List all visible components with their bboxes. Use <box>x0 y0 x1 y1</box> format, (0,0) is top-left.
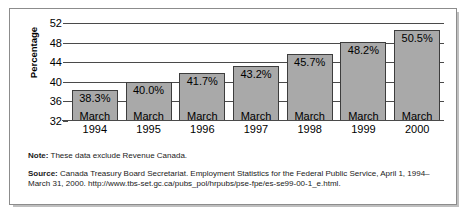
gridline <box>68 62 444 63</box>
x-tick-label: March1996 <box>175 110 229 135</box>
figure-panel: Percentage 323640444852 38.3%40.0%41.7%4… <box>9 8 457 205</box>
x-tick-label-line: 2000 <box>390 123 444 136</box>
bar-value-label: 45.7% <box>288 56 332 68</box>
y-tick-label: 40 <box>50 76 62 88</box>
bar-value-label: 48.2% <box>341 44 385 56</box>
y-tick-mark <box>63 82 68 83</box>
source-line: Source: Canada Treasury Board Secretaria… <box>28 169 440 190</box>
y-tick-mark <box>63 62 68 63</box>
source-text: Canada Treasury Board Secretariat. Emplo… <box>28 169 430 189</box>
x-tick-label: March1997 <box>229 110 283 135</box>
gridline <box>68 43 444 44</box>
x-tick-label-line: March <box>122 110 176 123</box>
bar-value-label: 41.7% <box>180 75 224 87</box>
x-tick-label: March2000 <box>390 110 444 135</box>
y-tick-mark <box>63 43 68 44</box>
y-tick-label: 48 <box>50 37 62 49</box>
gridline <box>68 23 444 24</box>
plot-area: 323640444852 38.3%40.0%41.7%43.2%45.7%48… <box>68 23 444 121</box>
x-tick-label-line: 1998 <box>283 123 337 136</box>
note-line: Note: These data exclude Revenue Canada. <box>28 151 440 162</box>
note-label: Note: <box>28 151 48 160</box>
bar-value-label: 38.3% <box>73 92 117 104</box>
x-tick-label-line: 1994 <box>68 123 122 136</box>
x-tick-label-line: 1996 <box>175 123 229 136</box>
y-tick-mark <box>63 101 68 102</box>
notes-block: Note: These data exclude Revenue Canada.… <box>28 151 440 190</box>
bar-value-label: 43.2% <box>234 68 278 80</box>
x-tick-label-line: March <box>337 110 391 123</box>
x-tick-label: March1998 <box>283 110 337 135</box>
x-tick-label-line: March <box>68 110 122 123</box>
bar-value-label: 40.0% <box>127 84 171 96</box>
x-tick-label-line: March <box>229 110 283 123</box>
note-text: These data exclude Revenue Canada. <box>51 151 188 160</box>
bar-value-label: 50.5% <box>395 32 439 44</box>
x-tick-label-line: March <box>175 110 229 123</box>
x-tick-label-line: 1995 <box>122 123 176 136</box>
x-tick-label: March1999 <box>337 110 391 135</box>
x-tick-label-line: 1997 <box>229 123 283 136</box>
y-tick-label: 32 <box>50 115 62 127</box>
x-tick-label: March1995 <box>122 110 176 135</box>
x-tick-label-line: March <box>283 110 337 123</box>
y-axis-title: Percentage <box>28 8 39 98</box>
x-tick-label: March1994 <box>68 110 122 135</box>
bar: 50.5% <box>394 30 440 121</box>
bar-chart: Percentage 323640444852 38.3%40.0%41.7%4… <box>10 9 456 141</box>
x-tick-label-line: March <box>390 110 444 123</box>
y-tick-label: 36 <box>50 95 62 107</box>
y-tick-mark <box>63 23 68 24</box>
y-tick-label: 44 <box>50 56 62 68</box>
x-tick-label-line: 1999 <box>337 123 391 136</box>
source-label: Source: <box>28 169 58 178</box>
y-tick-label: 52 <box>50 17 62 29</box>
